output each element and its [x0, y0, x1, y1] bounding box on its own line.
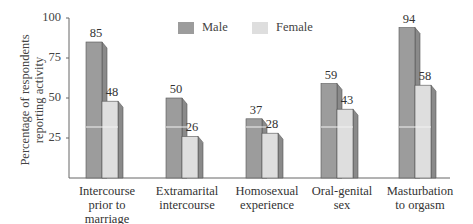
legend-label-male: Male	[202, 20, 228, 35]
legend-swatch-male	[178, 22, 194, 34]
bar-value-label: 43	[335, 93, 359, 108]
x-category-label: Extramaritalintercourse	[142, 184, 232, 212]
bar-value-label: 48	[100, 85, 124, 100]
bar-value-label: 50	[164, 82, 188, 97]
legend-male: Male	[178, 20, 228, 35]
bar-value-label: 59	[319, 68, 343, 83]
bar-value-label: 58	[413, 69, 437, 84]
y-tick-label: 75	[31, 50, 61, 65]
y-tick-label: 25	[31, 130, 61, 145]
bar-value-label: 85	[84, 26, 108, 41]
bar-value-label: 94	[397, 12, 421, 27]
legend-female: Female	[252, 20, 313, 35]
y-tick-label: 50	[31, 90, 61, 105]
y-axis-label-line1: Percentage of respondents	[18, 10, 32, 190]
bar-value-label: 37	[244, 103, 268, 118]
x-category-label: Intercourseprior tomarriage	[62, 184, 152, 224]
x-category-label: Oral-genitalsex	[297, 184, 387, 212]
y-tick-label: 100	[31, 10, 61, 25]
bar-value-label: 26	[180, 120, 204, 135]
chart: Percentage of respondents reporting acti…	[0, 0, 473, 224]
bar-value-label: 28	[260, 117, 284, 132]
legend-label-female: Female	[276, 20, 313, 35]
x-category-label: Masturbationto orgasm	[375, 184, 465, 212]
legend-swatch-female	[252, 22, 268, 34]
